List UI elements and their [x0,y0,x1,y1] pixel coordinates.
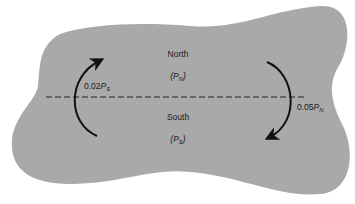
region-label-south: South [167,112,189,122]
diagram-canvas: North (PN) South (PS) 0.02PS 0.05PN [0,0,355,204]
population-label-north: (PN) [170,71,186,82]
country-region [12,6,350,195]
population-label-south: (PS) [170,134,186,145]
region-label-north: North [168,49,189,59]
